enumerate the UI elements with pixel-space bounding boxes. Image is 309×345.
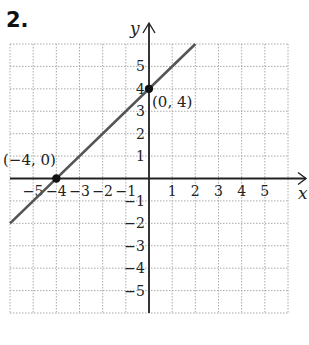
point-label: (0, 4): [152, 93, 192, 111]
y-tick-label: 1: [136, 148, 145, 164]
x-axis-label: x: [298, 183, 308, 203]
x-tick-label: 3: [214, 183, 223, 199]
x-tick-label: 1: [168, 183, 177, 199]
x-tick-label: −2: [92, 183, 113, 199]
x-tick-label: 5: [260, 183, 269, 199]
y-tick-label: −1: [124, 193, 145, 209]
x-tick-label: 2: [191, 183, 200, 199]
y-tick-label: −4: [124, 260, 145, 276]
point-marker: [145, 85, 153, 93]
x-tick-label: 4: [237, 183, 246, 199]
point-marker: [52, 174, 60, 182]
y-tick-label: −5: [124, 283, 145, 299]
x-tick-label: −3: [69, 183, 90, 199]
point-label: (−4, 0): [3, 151, 56, 169]
y-tick-label: 2: [136, 126, 145, 142]
y-tick-label: 3: [136, 103, 145, 119]
x-tick-label: −5: [23, 183, 44, 199]
y-tick-label: 5: [136, 58, 145, 74]
y-tick-label: −3: [124, 238, 145, 254]
y-axis-label: y: [129, 18, 140, 38]
y-tick-label: −2: [124, 215, 145, 231]
coordinate-plane: xy−5−4−3−2−11234554321−1−2−3−4−5(−4, 0)(…: [0, 0, 309, 345]
